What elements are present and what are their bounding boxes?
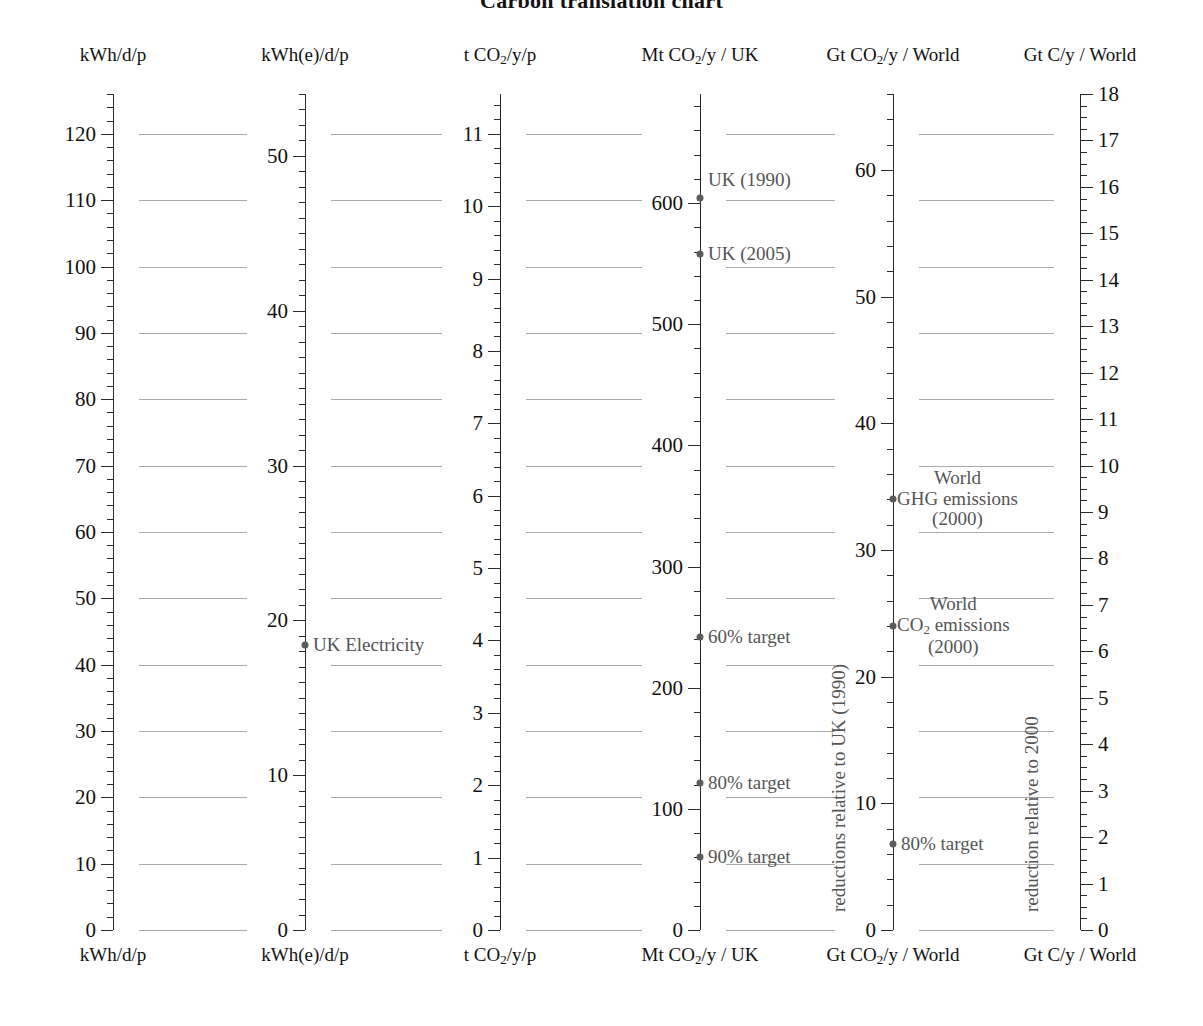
axis-tick-gtc-y-world xyxy=(1081,802,1087,803)
axis-tick-gtc-y-world xyxy=(1081,164,1087,165)
axis-tick-gtc-y-world xyxy=(1081,477,1087,478)
axis-tick-kwhe-d-p xyxy=(299,125,305,126)
axis-tick-kwhe-d-p xyxy=(299,109,305,110)
axis-tick-label-gtco2-y-world: 50 xyxy=(855,284,876,309)
axis-tick-kwh-d-p xyxy=(107,558,113,559)
axis-tick-kwh-d-p xyxy=(107,280,113,281)
axis-tick-gtc-y-world xyxy=(1081,907,1087,908)
axis-tick-mtco2-y-uk xyxy=(694,591,700,592)
axis-tick-kwhe-d-p xyxy=(299,884,305,885)
axis-tick-kwh-d-p xyxy=(107,346,113,347)
axis-tick-gtc-y-world xyxy=(1081,303,1087,304)
column-footer-gtco2-y-world: Gt CO2/y / World xyxy=(827,944,960,968)
axis-tick-tco2-y-p xyxy=(494,597,500,598)
axis-tick-label-gtc-y-world: 16 xyxy=(1098,174,1119,199)
axis-tick-tco2-y-p xyxy=(494,235,500,236)
connector-line xyxy=(139,200,247,201)
axis-tick-mtco2-y-uk xyxy=(694,760,700,761)
axis-tick-gtc-y-world xyxy=(1081,698,1093,699)
axis-tick-label-gtc-y-world: 18 xyxy=(1098,82,1119,107)
axis-tick-mtco2-y-uk xyxy=(694,276,700,277)
axis-tick-kwh-d-p xyxy=(107,187,113,188)
axis-tick-kwh-d-p xyxy=(107,890,113,891)
axis-tick-kwhe-d-p xyxy=(299,233,305,234)
axis-tick-tco2-y-p xyxy=(494,829,500,830)
connector-line xyxy=(726,200,835,201)
axis-tick-label-tco2-y-p: 10 xyxy=(462,194,483,219)
axis-tick-gtc-y-world xyxy=(1081,535,1087,536)
axis-tick-kwhe-d-p xyxy=(299,388,305,389)
axis-tick-gtc-y-world xyxy=(1081,466,1093,467)
data-point xyxy=(302,642,309,649)
connector-line xyxy=(919,930,1054,931)
axis-tick-tco2-y-p xyxy=(488,423,500,424)
axis-tick-tco2-y-p xyxy=(494,756,500,757)
data-point xyxy=(890,840,897,847)
axis-tick-label-kwh-d-p: 110 xyxy=(65,188,96,213)
axis-tick-tco2-y-p xyxy=(494,539,500,540)
axis-tick-kwhe-d-p xyxy=(299,94,305,95)
axis-tick-label-tco2-y-p: 8 xyxy=(473,338,484,363)
axis-tick-kwh-d-p xyxy=(107,479,113,480)
connector-line xyxy=(139,665,247,666)
axis-tick-label-gtc-y-world: 17 xyxy=(1098,128,1119,153)
axis-tick-label-tco2-y-p: 5 xyxy=(473,556,484,581)
axis-tick-kwhe-d-p xyxy=(299,589,305,590)
connector-line xyxy=(331,399,442,400)
axis-tick-kwh-d-p xyxy=(107,811,113,812)
axis-tick-kwh-d-p xyxy=(107,519,113,520)
axis-tick-gtco2-y-world xyxy=(887,905,893,906)
axis-tick-gtco2-y-world xyxy=(887,601,893,602)
axis-tick-kwhe-d-p xyxy=(299,435,305,436)
axis-tick-gtc-y-world xyxy=(1081,686,1087,687)
connector-line xyxy=(526,665,642,666)
axis-tick-gtc-y-world xyxy=(1081,431,1087,432)
axis-tick-kwh-d-p xyxy=(107,306,113,307)
connector-line xyxy=(139,797,247,798)
connector-line xyxy=(526,200,642,201)
axis-tick-gtc-y-world xyxy=(1081,582,1087,583)
axis-tick-tco2-y-p xyxy=(488,568,500,569)
axis-tick-tco2-y-p xyxy=(494,612,500,613)
axis-tick-gtc-y-world xyxy=(1081,524,1087,525)
axis-tick-mtco2-y-uk xyxy=(694,663,700,664)
axis-tick-gtc-y-world xyxy=(1081,558,1093,559)
connector-line xyxy=(526,333,642,334)
axis-tick-gtc-y-world xyxy=(1081,884,1093,885)
data-point-label: 90% target xyxy=(708,846,791,868)
axis-tick-kwhe-d-p xyxy=(299,497,305,498)
axis-tick-kwhe-d-p xyxy=(299,187,305,188)
data-point xyxy=(697,854,704,861)
axis-tick-kwh-d-p xyxy=(107,174,113,175)
axis-tick-label-kwh-d-p: 60 xyxy=(75,519,96,544)
axis-tick-label-mtco2-y-uk: 100 xyxy=(652,796,684,821)
axis-tick-kwhe-d-p xyxy=(299,729,305,730)
axis-tick-gtc-y-world xyxy=(1081,628,1087,629)
axis-tick-tco2-y-p xyxy=(494,814,500,815)
axis-tick-kwhe-d-p xyxy=(299,853,305,854)
axis-tick-label-kwhe-d-p: 40 xyxy=(267,298,288,323)
axis-tick-kwh-d-p xyxy=(101,134,113,135)
axis-tick-mtco2-y-uk xyxy=(694,882,700,883)
connector-line xyxy=(331,665,442,666)
axis-tick-kwhe-d-p xyxy=(299,667,305,668)
axis-tick-gtco2-y-world xyxy=(881,297,893,298)
axis-tick-kwh-d-p xyxy=(107,426,113,427)
axis-tick-tco2-y-p xyxy=(494,119,500,120)
axis-tick-label-gtc-y-world: 13 xyxy=(1098,314,1119,339)
axis-tick-gtco2-y-world xyxy=(887,879,893,880)
axis-tick-mtco2-y-uk xyxy=(694,470,700,471)
axis-tick-kwhe-d-p xyxy=(299,806,305,807)
connector-line xyxy=(331,466,442,467)
axis-tick-label-kwh-d-p: 20 xyxy=(75,785,96,810)
axis-tick-gtc-y-world xyxy=(1081,500,1087,501)
axis-tick-kwh-d-p xyxy=(107,227,113,228)
axis-tick-gtc-y-world xyxy=(1081,709,1087,710)
axis-tick-kwhe-d-p xyxy=(299,419,305,420)
axis-tick-tco2-y-p xyxy=(494,452,500,453)
axis-tick-kwh-d-p xyxy=(107,837,113,838)
connector-line xyxy=(919,333,1054,334)
axis-tick-kwh-d-p xyxy=(107,612,113,613)
axis-tick-kwh-d-p xyxy=(107,585,113,586)
axis-tick-label-mtco2-y-uk: 200 xyxy=(652,675,684,700)
